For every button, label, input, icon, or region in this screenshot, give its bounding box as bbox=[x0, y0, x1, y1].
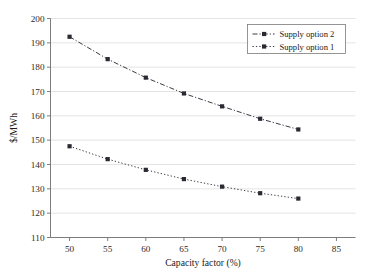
y-tick-label: 200 bbox=[31, 14, 45, 24]
data-point-marker bbox=[182, 177, 186, 181]
y-tick-label: 140 bbox=[31, 160, 45, 170]
data-point-marker bbox=[296, 196, 300, 200]
x-tick-marks bbox=[70, 238, 337, 242]
y-axis-title: $/MWh bbox=[8, 113, 19, 143]
legend-label: Supply option 1 bbox=[280, 42, 335, 52]
data-point-marker bbox=[182, 91, 186, 95]
x-tick-label: 70 bbox=[217, 244, 227, 254]
x-tick-label: 50 bbox=[65, 244, 75, 254]
data-point-marker bbox=[106, 57, 110, 61]
legend-marker bbox=[262, 32, 266, 36]
y-tick-label: 120 bbox=[31, 208, 45, 218]
y-tick-label: 180 bbox=[31, 62, 45, 72]
data-point-marker bbox=[144, 76, 148, 80]
data-point-marker bbox=[67, 144, 71, 148]
x-axis-title: Capacity factor (%) bbox=[165, 257, 241, 269]
x-tick-label: 75 bbox=[256, 244, 266, 254]
data-point-marker bbox=[220, 104, 224, 108]
data-point-marker bbox=[106, 157, 110, 161]
data-point-marker bbox=[258, 191, 262, 195]
y-tick-label: 130 bbox=[31, 184, 45, 194]
x-tick-label: 55 bbox=[103, 244, 113, 254]
y-tick-label: 190 bbox=[31, 38, 45, 48]
data-point-marker bbox=[144, 168, 148, 172]
x-tick-label: 65 bbox=[179, 244, 189, 254]
y-tick-label: 160 bbox=[31, 111, 45, 121]
data-point-marker bbox=[258, 117, 262, 121]
x-tick-labels: 5055606570758085 bbox=[65, 244, 341, 254]
data-series-group bbox=[67, 35, 300, 201]
y-tick-marks bbox=[47, 19, 51, 238]
legend-label: Supply option 2 bbox=[280, 29, 335, 39]
data-point-marker bbox=[67, 35, 71, 39]
x-tick-label: 80 bbox=[294, 244, 304, 254]
x-tick-label: 60 bbox=[141, 244, 151, 254]
y-tick-labels: 110120130140150160170180190200 bbox=[31, 14, 45, 243]
series-line-1 bbox=[70, 146, 299, 198]
y-tick-label: 170 bbox=[31, 87, 45, 97]
y-tick-label: 110 bbox=[31, 233, 45, 243]
chart-legend: Supply option 2Supply option 1 bbox=[248, 25, 346, 54]
x-tick-label: 85 bbox=[332, 244, 342, 254]
legend-marker bbox=[262, 44, 266, 48]
y-tick-label: 150 bbox=[31, 135, 45, 145]
data-point-marker bbox=[220, 185, 224, 189]
chart-container: 110120130140150160170180190200 505560657… bbox=[0, 0, 371, 272]
line-chart: 110120130140150160170180190200 505560657… bbox=[0, 0, 371, 272]
data-point-marker bbox=[296, 127, 300, 131]
